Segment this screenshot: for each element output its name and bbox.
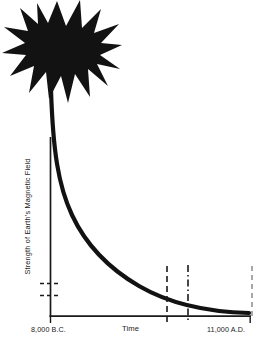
decay-curve [51,90,249,313]
x-tick-label-left: 8,000 B.C. [31,325,66,334]
x-axis-label: Time [122,324,139,333]
magnetic-field-decay-figure: Strength of Earth's Magnetic Field Time … [0,0,279,337]
x-tick-label-right: 11,000 A.D. [207,325,245,334]
starburst-icon [2,0,122,103]
y-axis-label: Strength of Earth's Magnetic Field [23,142,32,292]
chart-canvas [0,0,279,337]
